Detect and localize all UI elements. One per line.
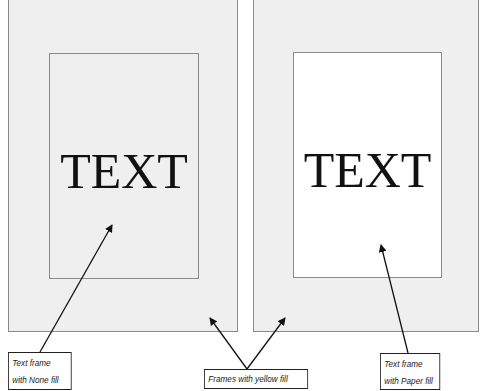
right-text-frame-paper-fill: TEXT — [293, 52, 442, 278]
callout-none-fill-line1: Text frame — [12, 354, 67, 371]
callout-none-fill: Text frame with None fill — [8, 352, 72, 390]
left-frame-text: TEXT — [50, 142, 198, 200]
left-text-frame-none-fill: TEXT — [49, 53, 199, 279]
callout-paper-fill-line1: Text frame — [384, 355, 436, 372]
callout-yellow-fill-line1: Frames with yellow fill — [208, 371, 303, 387]
callout-yellow-fill: Frames with yellow fill — [204, 369, 308, 389]
callout-none-fill-line2: with None fill — [12, 371, 67, 388]
callout-paper-fill: Text frame with Paper fill — [380, 353, 440, 390]
right-frame-text: TEXT — [294, 141, 441, 199]
callout-paper-fill-line2: with Paper fill — [384, 372, 436, 389]
